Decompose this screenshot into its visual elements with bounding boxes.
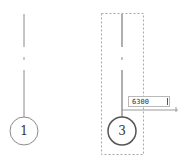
dimension-value-input[interactable]: 6300 <box>128 96 170 107</box>
grid-label-3: 3 <box>112 124 132 138</box>
temporary-dimension <box>122 107 178 112</box>
grid-label-1: 1 <box>14 124 34 138</box>
drawing-svg <box>0 0 182 167</box>
drawing-canvas[interactable]: 1 3 6300 <box>0 0 182 167</box>
text-cursor <box>167 98 168 105</box>
